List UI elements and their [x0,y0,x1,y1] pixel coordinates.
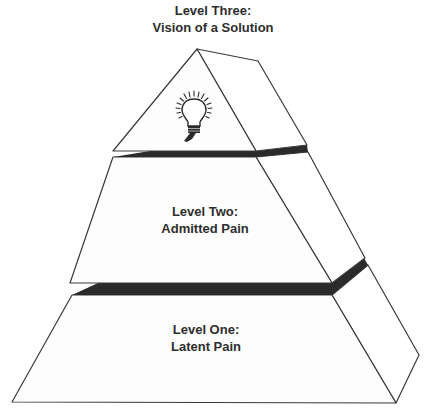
level-one-label: Level One: Latent Pain [171,321,241,355]
pyramid-diagram: Level Three: Vision of a Solution Level … [0,0,427,415]
level-three-label: Level Three: Vision of a Solution [152,2,273,36]
lightbulb-icon [170,89,218,145]
level-two-subtitle: Admitted Pain [161,220,248,237]
level-three-subtitle: Vision of a Solution [152,19,273,36]
level-two-label: Level Two: Admitted Pain [161,203,248,237]
level-one-title: Level One: [171,321,241,338]
level-three-title: Level Three: [152,2,273,19]
level-two-title: Level Two: [161,203,248,220]
level-one-subtitle: Latent Pain [171,338,241,355]
